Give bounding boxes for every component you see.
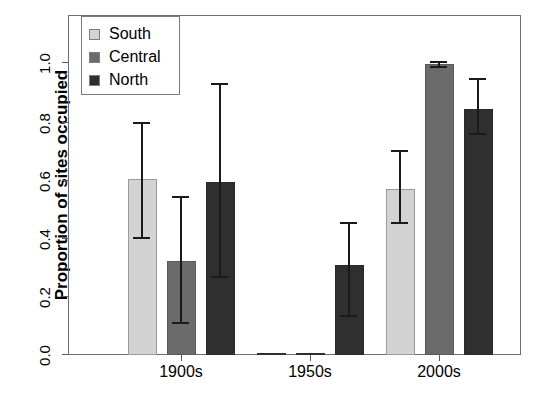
legend-label-south: South xyxy=(109,26,151,42)
legend: South Central North xyxy=(81,16,180,95)
legend-item-north: North xyxy=(89,68,148,92)
errorbar-cap-upper-1900s-south xyxy=(133,122,150,124)
errorbar-cap-lower-2000s-north xyxy=(469,133,486,135)
errorbar-stem-1900s-north xyxy=(219,83,221,276)
errorbar-cap-upper-1950s-north xyxy=(340,222,357,224)
errorbar-cap-upper-2000s-central xyxy=(430,61,447,63)
errorbar-cap-lower-1950s-north xyxy=(340,315,357,317)
legend-label-central: Central xyxy=(109,49,161,65)
errorbar-stem-2000s-north xyxy=(477,78,479,134)
x-tick-label-1950s: 1950s xyxy=(265,363,355,381)
bar-2000s-north xyxy=(464,109,493,355)
x-tick-label-1900s: 1900s xyxy=(136,363,226,381)
bar-chart-figure: Proportion of sites occupied 0.0 0.2 0.4… xyxy=(0,0,541,399)
bar-1950s-south xyxy=(257,353,286,355)
errorbar-cap-lower-1900s-north xyxy=(211,276,228,278)
y-tick-label-3: 0.6 xyxy=(36,162,53,202)
x-tick-mark-2000s xyxy=(439,355,440,361)
y-tick-label-2: 0.4 xyxy=(36,220,53,260)
errorbar-stem-1950s-north xyxy=(348,222,350,316)
errorbar-cap-lower-2000s-central xyxy=(430,66,447,68)
y-tick-label-1: 0.2 xyxy=(36,278,53,318)
errorbar-stem-1900s-south xyxy=(141,122,143,238)
errorbar-cap-lower-1900s-central xyxy=(172,322,189,324)
errorbar-cap-upper-2000s-north xyxy=(469,78,486,80)
y-tick-label-0: 0.0 xyxy=(36,336,53,376)
central-swatch-icon xyxy=(89,52,100,63)
errorbar-stem-2000s-south xyxy=(399,150,401,223)
x-tick-mark-1950s xyxy=(310,355,311,361)
legend-item-south: South xyxy=(89,22,151,46)
y-tick-label-5: 1.0 xyxy=(36,44,53,84)
bar-2000s-central xyxy=(425,64,454,355)
errorbar-stem-1900s-central xyxy=(180,196,182,323)
y-tick-label-4: 0.8 xyxy=(36,104,53,144)
errorbar-cap-upper-2000s-south xyxy=(391,150,408,152)
errorbar-cap-upper-1900s-central xyxy=(172,196,189,198)
x-tick-mark-1900s xyxy=(181,355,182,361)
errorbar-cap-lower-1900s-south xyxy=(133,237,150,239)
legend-label-north: North xyxy=(109,72,148,88)
legend-item-central: Central xyxy=(89,45,161,69)
north-swatch-icon xyxy=(89,75,100,86)
errorbar-cap-upper-1900s-north xyxy=(211,83,228,85)
errorbar-cap-lower-2000s-south xyxy=(391,222,408,224)
x-tick-label-2000s: 2000s xyxy=(394,363,484,381)
south-swatch-icon xyxy=(89,29,100,40)
